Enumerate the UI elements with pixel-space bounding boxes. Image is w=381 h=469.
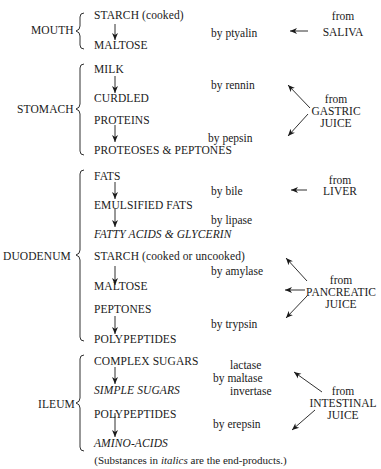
footnote-italic: italics	[161, 454, 188, 466]
substance-fats: FATS	[94, 171, 120, 183]
enzyme-erepsin: by erepsin	[213, 419, 261, 431]
enzyme-ptyalin: by ptyalin	[211, 28, 257, 40]
substance-simple-sugars: SIMPLE SUGARS	[94, 385, 180, 397]
enzyme-trypsin: by trypsin	[211, 319, 257, 331]
substance-milk: MILK	[94, 64, 124, 76]
enzyme-lactase: lactase	[230, 360, 261, 372]
footnote-prefix: (Substances in	[94, 454, 161, 466]
footnote: (Substances in italics are the end-produ…	[0, 455, 381, 466]
source-pancreatic-juice: JUICE	[304, 299, 378, 311]
source-pancreatic-from: from	[304, 275, 378, 287]
enzyme-maltase: by maltase	[213, 373, 263, 385]
source-saliva: SALIVA	[313, 27, 373, 39]
substance-curdled: CURDLED	[94, 93, 149, 105]
substance-starch-duodenum: STARCH (cooked or uncooked)	[94, 251, 245, 263]
substance-complex-sugars: COMPLEX SUGARS	[94, 356, 199, 368]
footnote-suffix: are the end-products.)	[188, 454, 287, 466]
substance-proteoses-peptones: PROTEOSES & PEPTONES	[94, 145, 232, 157]
substance-fatty-acids-glycerin: FATTY ACIDS & GLYCERIN	[94, 229, 232, 241]
source-intestinal-juice: JUICE	[306, 410, 380, 422]
organ-label-stomach: STOMACH	[17, 104, 74, 116]
substance-emulsified-fats: EMULSIFIED FATS	[94, 200, 193, 212]
substance-amino-acids: AMINO-ACIDS	[94, 438, 168, 450]
stomach-brace	[76, 64, 84, 155]
substance-polypeptides-ileum: POLYPEPTIDES	[94, 409, 176, 421]
source-pancreatic: PANCREATIC	[304, 287, 378, 299]
enzyme-bile: by bile	[211, 186, 243, 198]
source-gastric: GASTRIC	[303, 106, 369, 118]
organ-label-duodenum: DUODENUM	[3, 251, 71, 263]
substance-peptones: PEPTONES	[94, 304, 151, 316]
organ-label-ileum: ILEUM	[38, 399, 75, 411]
source-liver: LIVER	[310, 186, 370, 198]
substance-proteins: PROTEINS	[94, 115, 150, 127]
enzyme-pepsin: by pepsin	[208, 133, 252, 145]
source-saliva-from: from	[313, 11, 373, 23]
substance-polypeptides: POLYPEPTIDES	[94, 334, 176, 346]
source-gastric-juice: JUICE	[303, 118, 369, 130]
source-intestinal-from: from	[306, 386, 380, 398]
substance-starch: STARCH (cooked)	[94, 10, 184, 22]
duodenum-brace	[76, 170, 84, 341]
source-intestinal: INTESTINAL	[306, 398, 380, 410]
enzyme-rennin: by rennin	[211, 80, 255, 92]
substance-maltose: MALTOSE	[94, 40, 148, 52]
enzyme-lipase: by lipase	[211, 215, 252, 227]
enzyme-amylase: by amylase	[211, 266, 263, 278]
source-gastric-from: from	[303, 94, 369, 106]
substance-maltose-duodenum: MALTOSE	[94, 281, 148, 293]
organ-label-mouth: MOUTH	[31, 25, 74, 37]
mouth-brace	[76, 13, 84, 49]
enzyme-invertase: invertase	[230, 386, 272, 398]
ileum-brace	[76, 355, 84, 451]
